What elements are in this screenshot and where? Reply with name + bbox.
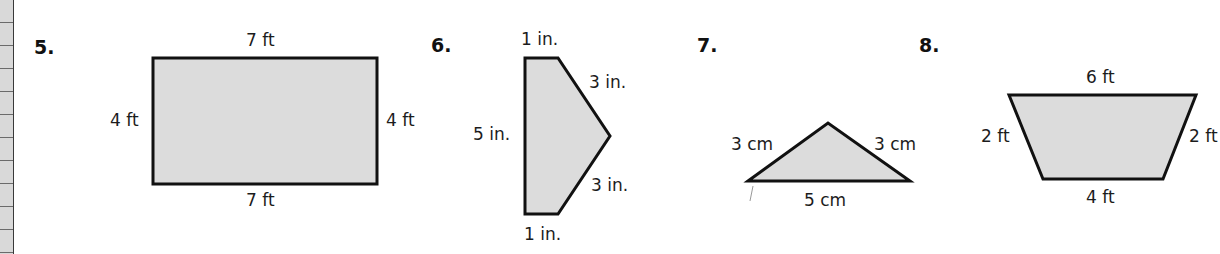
- pentagon-bottom-label: 1 in.: [524, 224, 561, 244]
- triangle-right-label: 3 cm: [874, 134, 916, 154]
- pencil-mark: [750, 186, 753, 201]
- problem-number-8: 8.: [919, 34, 939, 56]
- pentagon-top-label: 1 in.: [521, 29, 558, 49]
- trapezoid-bottom-label: 4 ft: [1086, 187, 1115, 207]
- trapezoid-figure: [1009, 95, 1196, 179]
- triangle-left-label: 3 cm: [731, 134, 773, 154]
- rectangle-figure: [153, 58, 377, 184]
- triangle-bottom-label: 5 cm: [804, 190, 846, 210]
- problem-number-6: 6.: [431, 34, 451, 56]
- trapezoid-top-label: 6 ft: [1086, 67, 1115, 87]
- trapezoid-right-label: 2 ft: [1189, 126, 1218, 146]
- pentagon-left-label: 5 in.: [473, 124, 510, 144]
- rect-top-label: 7 ft: [246, 30, 275, 50]
- pentagon-upper-right-label: 3 in.: [589, 72, 626, 92]
- rect-bottom-label: 7 ft: [246, 190, 275, 210]
- rect-right-label: 4 ft: [386, 110, 415, 130]
- problem-number-7: 7.: [697, 34, 717, 56]
- figures-canvas: [0, 0, 1220, 254]
- pentagon-lower-right-label: 3 in.: [591, 175, 628, 195]
- rect-left-label: 4 ft: [110, 110, 139, 130]
- trapezoid-left-label: 2 ft: [981, 126, 1010, 146]
- problem-number-5: 5.: [34, 36, 54, 58]
